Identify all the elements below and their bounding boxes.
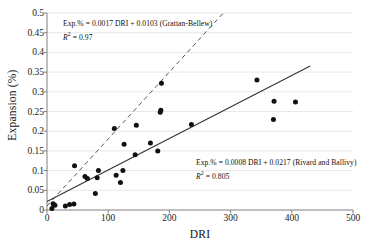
r2-grattan-bellew: R2 = 0.97 — [63, 30, 212, 43]
x-tick-label: 500 — [346, 213, 360, 223]
y-tick-label: 0.25 — [16, 107, 44, 117]
r2-exponent-rb: 2 — [201, 170, 204, 176]
r2-exponent-gb: 2 — [68, 31, 71, 37]
x-tick-label: 100 — [101, 213, 115, 223]
data-point — [272, 99, 277, 104]
data-point — [155, 148, 160, 153]
data-point — [112, 126, 117, 131]
data-point — [133, 152, 138, 157]
data-point — [71, 202, 76, 207]
y-axis-ticks: 00.050.10.150.20.250.30.350.40.450.5 — [14, 0, 44, 252]
y-tick-label: 0.4 — [16, 47, 44, 57]
y-tick-label: 0.35 — [16, 67, 44, 77]
data-point — [114, 173, 119, 178]
data-point — [134, 123, 139, 128]
y-tick-label: 0.05 — [16, 185, 44, 195]
x-tick-label: 200 — [162, 213, 176, 223]
annotation-rivard-ballivy: Exp.% = 0.0008 DRI + 0.0217 (Rivard and … — [196, 157, 357, 182]
chart-figure: Expansion (%) 00.050.10.150.20.250.30.35… — [0, 0, 377, 252]
data-points — [49, 77, 298, 210]
x-axis-label: DRI — [47, 228, 353, 240]
data-point — [67, 202, 72, 207]
annotation-grattan-bellew: Exp.% = 0.0017 DRI + 0.0103 (Grattan-Bel… — [63, 18, 212, 43]
data-point — [122, 142, 127, 147]
data-point — [118, 180, 123, 185]
axis-lines — [44, 13, 354, 214]
data-point — [63, 204, 68, 209]
equation-grattan-bellew: Exp.% = 0.0017 DRI + 0.0103 (Grattan-Bel… — [63, 19, 212, 28]
y-tick-label: 0.3 — [16, 87, 44, 97]
x-tick-label: 0 — [45, 213, 50, 223]
data-point — [189, 122, 194, 127]
y-tick-label: 0.5 — [16, 8, 44, 18]
y-tick-label: 0.15 — [16, 146, 44, 156]
y-tick-label: 0.1 — [16, 166, 44, 176]
r2-value-rb: = 0.805 — [206, 172, 230, 181]
r2-rivard-ballivy: R2 = 0.805 — [196, 169, 357, 182]
data-point — [72, 163, 77, 168]
data-point — [148, 141, 153, 146]
data-point — [254, 77, 259, 82]
data-point — [96, 168, 101, 173]
data-point — [85, 176, 90, 181]
x-tick-label: 300 — [223, 213, 237, 223]
data-point — [93, 191, 98, 196]
data-point — [95, 175, 100, 180]
data-point — [271, 117, 276, 122]
equation-rivard-ballivy: Exp.% = 0.0008 DRI + 0.0217 (Rivard and … — [196, 158, 357, 167]
data-point — [159, 81, 164, 86]
data-point — [120, 168, 125, 173]
y-tick-label: 0.45 — [16, 28, 44, 38]
y-tick-label: 0.2 — [16, 126, 44, 136]
data-point — [293, 100, 298, 105]
x-tick-label: 400 — [285, 213, 299, 223]
r2-value-gb: = 0.97 — [73, 33, 93, 42]
data-point — [52, 203, 57, 208]
data-point — [158, 108, 163, 113]
y-tick-label: 0 — [16, 205, 44, 215]
